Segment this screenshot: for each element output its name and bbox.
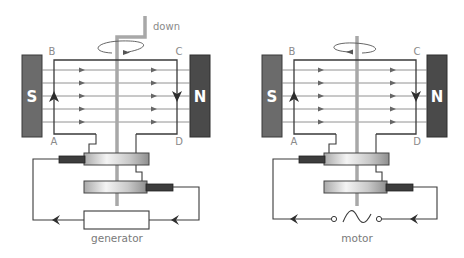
corner-label-d: D [413, 136, 421, 147]
coil-loop [294, 60, 416, 134]
motor-caption: motor [341, 232, 373, 244]
corner-label-b: B [289, 46, 296, 57]
generator-motor-diagram: S N down B C A [0, 0, 464, 258]
supply-terminal-right [376, 216, 381, 221]
corner-label-c: C [176, 46, 183, 57]
corner-label-c: C [414, 46, 421, 57]
lead-to-upper-ring [89, 134, 96, 153]
lead-to-upper-ring [329, 134, 336, 153]
magnetic-field-lines [282, 70, 427, 122]
rotation-arrow-icon [334, 43, 376, 55]
generator-panel: S N down B C A [22, 16, 210, 244]
south-magnet-label: S [27, 88, 38, 106]
right-brush [146, 184, 173, 191]
corner-label-a: A [51, 136, 58, 147]
south-magnet-label: S [267, 88, 278, 106]
north-magnet-label: N [431, 88, 444, 106]
rotation-arrow-icon [98, 41, 144, 55]
right-brush [386, 184, 413, 191]
corner-label-b: B [49, 46, 56, 57]
ac-sine-wave-icon [343, 211, 371, 223]
shaft-direction-label: down [153, 21, 180, 32]
lower-slip-ring [84, 181, 147, 193]
corner-label-d: D [175, 136, 183, 147]
supply-terminal-left [331, 216, 336, 221]
left-brush [299, 156, 325, 163]
upper-slip-ring [324, 153, 389, 165]
generator-caption: generator [91, 232, 144, 244]
shaft [117, 16, 145, 206]
motor-panel: S N B C A D [262, 36, 447, 244]
north-magnet-label: N [194, 88, 207, 106]
corner-label-a: A [291, 136, 298, 147]
left-brush [59, 156, 85, 163]
upper-slip-ring [84, 153, 149, 165]
resistor-load [84, 211, 149, 229]
lower-slip-ring [324, 181, 387, 193]
